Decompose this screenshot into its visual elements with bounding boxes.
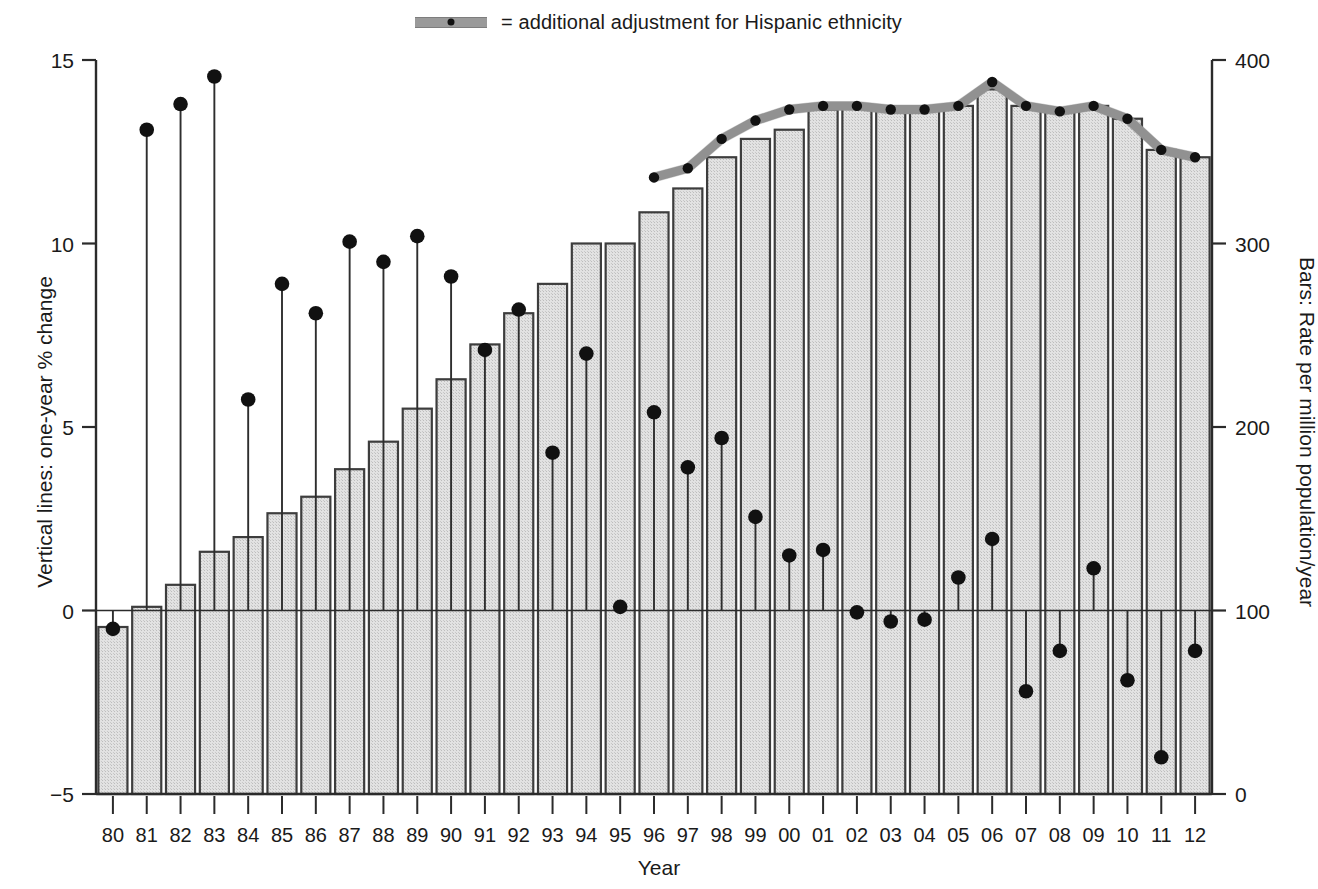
- stem-marker: [613, 600, 628, 615]
- bar: [1181, 157, 1210, 794]
- x-tick-label: 91: [474, 824, 496, 846]
- x-tick-label: 11: [1151, 824, 1172, 846]
- left-tick-label: −5: [50, 783, 74, 806]
- bar: [876, 110, 905, 794]
- stem-marker: [173, 97, 188, 611]
- bar: [944, 106, 973, 794]
- stem-marker: [139, 122, 154, 610]
- right-tick-label: 100: [1235, 600, 1270, 623]
- bar: [978, 89, 1007, 794]
- x-tick-label: 93: [541, 824, 563, 846]
- x-tick-label: 08: [1049, 824, 1071, 846]
- x-tick-label: 09: [1083, 824, 1105, 846]
- x-tick-label: 97: [677, 824, 699, 846]
- x-tick-label: 06: [981, 824, 1003, 846]
- x-tick-label: 02: [846, 824, 868, 846]
- bar: [1113, 119, 1142, 794]
- bar: [98, 627, 127, 794]
- stem-marker: [207, 69, 222, 610]
- x-tick-label: 99: [744, 824, 766, 846]
- bar: [809, 110, 838, 794]
- chart-figure: = additional adjustment for Hispanic eth…: [0, 0, 1318, 889]
- x-tick-label: 96: [643, 824, 665, 846]
- stem-marker: [106, 611, 121, 637]
- x-tick-label: 00: [778, 824, 800, 846]
- x-tick-label: 07: [1015, 824, 1037, 846]
- x-tick-label: 10: [1116, 824, 1138, 846]
- plot-area: 151050−540030020010008081828384858687888…: [0, 0, 1318, 889]
- bar: [1079, 106, 1108, 794]
- x-tick-label: 03: [880, 824, 902, 846]
- right-tick-label: 400: [1235, 49, 1270, 72]
- x-tick-label: 04: [913, 824, 935, 846]
- left-tick-label: 15: [51, 49, 74, 72]
- x-tick-label: 95: [609, 824, 631, 846]
- x-tick-label: 92: [508, 824, 530, 846]
- x-tick-label: 83: [203, 824, 225, 846]
- x-tick-label: 12: [1184, 824, 1206, 846]
- bar: [842, 106, 871, 794]
- x-tick-label: 89: [406, 824, 428, 846]
- x-tick-label: 94: [575, 824, 597, 846]
- left-tick-label: 10: [51, 233, 74, 256]
- x-tick-label: 86: [305, 824, 327, 846]
- x-tick-label: 81: [136, 824, 158, 846]
- stem-marker: [850, 605, 865, 620]
- x-tick-label: 84: [237, 824, 259, 846]
- right-tick-label: 200: [1235, 416, 1270, 439]
- x-tick-label: 85: [271, 824, 293, 846]
- bar: [132, 607, 161, 794]
- bar: [741, 139, 770, 794]
- x-tick-label: 88: [372, 824, 394, 846]
- x-tick-label: 87: [339, 824, 361, 846]
- x-tick-label: 80: [102, 824, 124, 846]
- bar: [1045, 111, 1074, 794]
- left-tick-label: 5: [62, 416, 74, 439]
- bar: [910, 110, 939, 794]
- x-tick-label: 98: [711, 824, 733, 846]
- x-tick-label: 82: [169, 824, 191, 846]
- x-tick-label: 05: [947, 824, 969, 846]
- x-tick-label: 01: [812, 824, 834, 846]
- x-tick-label: 90: [440, 824, 462, 846]
- right-tick-label: 300: [1235, 233, 1270, 256]
- right-tick-label: 0: [1235, 783, 1247, 806]
- bar: [775, 130, 804, 794]
- bar: [166, 585, 195, 794]
- bar: [606, 244, 635, 795]
- left-tick-label: 0: [62, 600, 74, 623]
